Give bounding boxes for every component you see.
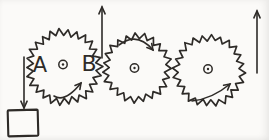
- rotation-arrow-counterclockwise: [192, 84, 230, 101]
- gear-teeth-outline: [173, 35, 246, 106]
- axle-dot-icon: [133, 67, 135, 69]
- rim-up-arrow: [254, 11, 260, 73]
- hanging-weight-box: [8, 110, 39, 137]
- gear-train-diagram: AB: [0, 0, 269, 140]
- gear-right: [173, 35, 246, 106]
- sketch-page: AB: [0, 0, 269, 140]
- gear-left: AB: [27, 29, 103, 106]
- axle-dot-icon: [62, 63, 64, 65]
- gear-label-A: A: [33, 53, 48, 77]
- weight-down-arrow: [21, 57, 27, 108]
- gear-middle: [103, 33, 171, 103]
- axle-dot-icon: [207, 68, 209, 70]
- gear-teeth-outline: [103, 33, 171, 103]
- mesh-up-arrow: [99, 7, 105, 58]
- gear-label-B: B: [81, 51, 96, 76]
